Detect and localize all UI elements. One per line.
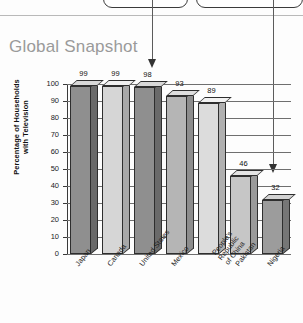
y-axis-tick-label: 90 (37, 97, 59, 105)
y-axis-tick-label-holder: 70 (37, 131, 59, 139)
y-axis-tick-label-holder: 60 (37, 148, 59, 156)
y-axis-tick (63, 84, 67, 85)
bar-value-label: 46 (230, 160, 258, 168)
bar-value-label: 89 (198, 87, 226, 95)
bar-value-label: 99 (102, 70, 130, 78)
y-axis-tick-label-holder: 50 (37, 165, 59, 173)
y-axis-tick (63, 220, 67, 221)
y-axis-title-line1: Percentage of Households (12, 67, 21, 187)
y-axis-tick-label-holder: 100 (37, 80, 59, 88)
bar-side-face (283, 194, 290, 254)
bar-side-face (91, 80, 98, 254)
y-axis-tick-label-holder: 20 (37, 216, 59, 224)
bar (198, 103, 219, 254)
y-axis-tick-label: 30 (37, 199, 59, 207)
y-axis-tick (63, 237, 67, 238)
bar-value-label: 99 (70, 70, 98, 78)
y-axis-tick-label-holder: 40 (37, 182, 59, 190)
y-axis-tick (63, 203, 67, 204)
y-axis-tick-label: 100 (37, 80, 59, 88)
y-axis-tick-label: 20 (37, 216, 59, 224)
bar (70, 86, 91, 254)
bar-front-face (70, 86, 91, 254)
bar (102, 86, 123, 254)
y-axis-tick-label-holder: 90 (37, 97, 59, 105)
bar-value-label: 32 (262, 184, 290, 192)
y-axis-title-line2: with Television (21, 67, 30, 187)
bar-chart: Percentage of Households with Television… (0, 0, 303, 323)
y-axis-tick-label-holder: 80 (37, 114, 59, 122)
y-axis-tick (63, 118, 67, 119)
y-axis-tick-label: 10 (37, 233, 59, 241)
bar-front-face (102, 86, 123, 254)
y-axis-tick-label: 70 (37, 131, 59, 139)
y-axis-tick-label: 80 (37, 114, 59, 122)
y-axis-tick (63, 135, 67, 136)
y-axis-tick-label: 40 (37, 182, 59, 190)
y-axis-tick (63, 186, 67, 187)
bar-value-label: 98 (134, 71, 162, 79)
y-axis-title: Percentage of Households with Television (12, 67, 30, 187)
y-axis-tick (63, 254, 67, 255)
y-axis-tick-label-holder: 30 (37, 199, 59, 207)
bar (166, 96, 187, 254)
bar-side-face (155, 82, 162, 254)
bar-value-label: 93 (166, 80, 194, 88)
bar-side-face (187, 90, 194, 254)
bar-side-face (123, 80, 130, 254)
y-axis-tick (63, 169, 67, 170)
y-axis-tick-label: 50 (37, 165, 59, 173)
y-axis-tick (63, 152, 67, 153)
y-axis-tick-label: 60 (37, 148, 59, 156)
y-axis-tick-label-holder: 10 (37, 233, 59, 241)
bar-front-face (134, 87, 155, 254)
y-axis-tick (63, 101, 67, 102)
bar-front-face (166, 96, 187, 254)
y-axis-tick-label: 0 (37, 250, 59, 258)
bar (134, 87, 155, 254)
y-axis-tick-label-holder: 0 (37, 250, 59, 258)
bar-front-face (198, 103, 219, 254)
